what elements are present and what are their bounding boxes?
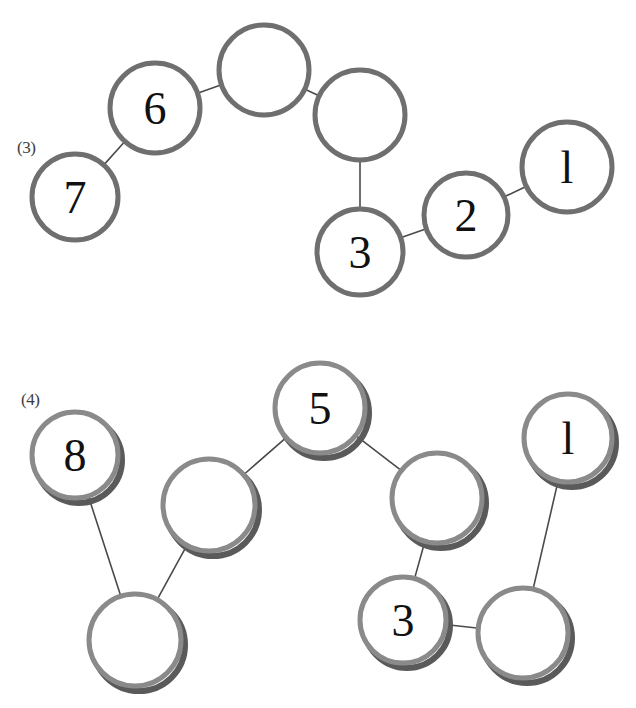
panel-label-4: (4) (21, 391, 39, 408)
graph-node-3[interactable]: 3 (360, 577, 450, 668)
graph-edge (402, 229, 425, 237)
graph-node-l[interactable]: l (524, 394, 616, 487)
graph-edge (306, 90, 318, 96)
graph-edge (357, 436, 400, 469)
node-number-label: 5 (309, 383, 332, 434)
graph-node-empty[interactable] (478, 588, 572, 683)
node-number-label: 3 (392, 595, 415, 646)
edges-layer (89, 85, 558, 628)
panel-label-3: (3) (17, 139, 35, 156)
graph-node-empty[interactable] (89, 594, 185, 691)
node-number-label: 6 (144, 83, 167, 134)
graph-edge (505, 187, 525, 196)
graph-node-2[interactable]: 2 (424, 173, 508, 257)
graph-svg: 7632l85l3 (0, 0, 636, 708)
node-number-label: 8 (64, 430, 87, 481)
node-number-label: l (561, 142, 574, 193)
node-number-label: 3 (349, 227, 372, 278)
graph-node-5[interactable]: 5 (275, 363, 369, 458)
graph-node-6[interactable]: 6 (110, 63, 200, 153)
graph-node-empty[interactable] (163, 459, 259, 556)
node-number-label: 7 (64, 172, 87, 223)
graph-node-8[interactable]: 8 (32, 412, 122, 503)
graph-edge (158, 547, 186, 599)
node-number-label: 2 (455, 190, 478, 241)
graph-edge (105, 143, 124, 164)
graph-node-l[interactable]: l (522, 122, 612, 212)
graph-node-empty[interactable] (315, 70, 405, 160)
graph-node-empty[interactable] (219, 25, 309, 115)
graph-node-empty[interactable] (392, 453, 486, 548)
graph-edge (245, 439, 285, 474)
graph-node-7[interactable]: 7 (32, 154, 118, 240)
graph-edge (533, 482, 557, 587)
graph-node-3[interactable]: 3 (317, 209, 403, 295)
graph-edge (415, 543, 425, 577)
diagram-canvas: 7632l85l3 (3) (4) (0, 0, 636, 708)
graph-edge (199, 85, 220, 92)
node-number-label: l (562, 413, 575, 464)
graph-edge (89, 497, 121, 594)
